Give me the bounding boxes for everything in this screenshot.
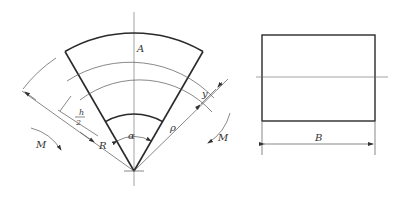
- cross-section-view: B: [256, 35, 388, 155]
- right-radial-edge: [134, 52, 203, 172]
- cross-section-rect: [262, 35, 375, 121]
- y-arrow-top: [218, 82, 222, 87]
- h-half-ext: [60, 96, 71, 111]
- label-h-half-num: h: [79, 108, 84, 117]
- curved-beam-view: A α ρ R y h 2 M M: [22, 12, 230, 186]
- label-y: y: [201, 88, 208, 99]
- outer-extension-arc: [23, 58, 56, 89]
- label-rho: ρ: [169, 122, 176, 133]
- left-radial-edge: [65, 52, 134, 172]
- R-arrow-line: [80, 132, 94, 142]
- neutral-arc: [80, 80, 212, 112]
- label-h-half-den: 2: [75, 118, 81, 127]
- label-alpha: α: [128, 130, 135, 141]
- label-R: R: [98, 140, 107, 151]
- rho-extension-line: [134, 79, 228, 171]
- label-M-left: M: [35, 139, 47, 150]
- outer-dim-arrow: [25, 92, 36, 100]
- label-M-right: M: [217, 132, 229, 143]
- diagram-canvas: A α ρ R y h 2 M M B: [0, 0, 400, 197]
- label-B: B: [314, 132, 322, 143]
- label-A: A: [136, 43, 144, 54]
